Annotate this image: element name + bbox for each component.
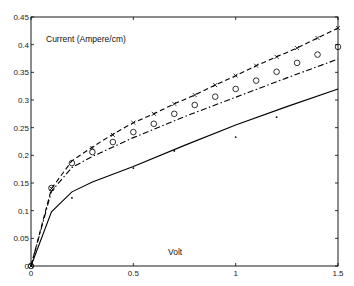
x-tick-label: 0.5 [128,269,140,278]
y-tick-label: 0.15 [13,179,29,188]
y-tick-label: 0.25 [13,124,29,133]
y-axis-label: Current (Ampere/cm) [46,34,126,44]
x-tick-label: 1.5 [332,269,344,278]
dot-marker [235,136,237,138]
y-tick-label: 0.2 [18,151,30,160]
x-tick-label: 0 [29,269,34,278]
y-tick-label: 0.05 [13,234,29,243]
y-tick-label: 0.45 [13,13,29,22]
x-axis-label: Volt [168,247,183,257]
y-tick-label: 0 [25,262,30,271]
dot-marker [276,116,278,118]
dot-marker [173,150,175,152]
iv-chart: 00.511.500.050.10.150.20.250.30.350.40.4… [0,0,354,286]
y-tick-label: 0.3 [18,96,30,105]
dot-marker [132,167,134,169]
y-tick-label: 0.35 [13,68,29,77]
x-tick-label: 1 [233,269,238,278]
y-tick-label: 0.1 [18,207,30,216]
y-tick-label: 0.4 [18,41,30,50]
dot-marker [71,197,73,199]
